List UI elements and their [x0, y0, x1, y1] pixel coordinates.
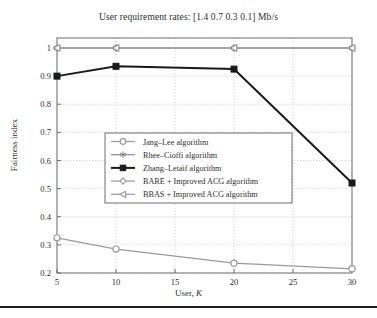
- x-tick-label: 10: [112, 277, 121, 287]
- y-tick-label: 0.9: [40, 71, 51, 81]
- legend-item-label: Jang–Lee algorithm: [143, 138, 209, 147]
- series-5: [53, 45, 354, 51]
- marker-filled-square-icon: [54, 73, 60, 79]
- x-tick-label: 30: [348, 277, 357, 287]
- y-tick-label: 0.6: [40, 156, 51, 166]
- marker-circle-icon: [349, 266, 355, 272]
- x-tick-label: 20: [230, 277, 239, 287]
- legend-item-label: Zhang–Letaif algorithm: [143, 164, 222, 173]
- marker-left-triangle-icon: [112, 45, 118, 51]
- y-tick-label: 0.8: [40, 99, 51, 109]
- marker-circle-icon: [231, 260, 237, 266]
- figure-container: User requirement rates: [1.4 0.7 0.3 0.1…: [0, 0, 377, 318]
- bottom-rule-divider: [0, 306, 377, 308]
- legend-item-label: BARE + Improved ACG algorithm: [143, 177, 259, 186]
- marker-circle-icon: [113, 246, 119, 252]
- x-tick-label: 15: [171, 277, 180, 287]
- marker-filled-square-icon: [113, 63, 119, 69]
- x-tick-label: 5: [55, 277, 59, 287]
- y-tick-label: 1: [47, 43, 51, 53]
- x-tick-label: 25: [289, 277, 298, 287]
- marker-filled-square-icon: [349, 180, 355, 186]
- marker-circle-icon: [120, 139, 126, 145]
- marker-left-triangle-icon: [53, 45, 59, 51]
- y-tick-label: 0.3: [40, 240, 51, 250]
- series-line: [57, 238, 352, 269]
- y-tick-label: 0.4: [40, 212, 51, 222]
- legend-item-label: Rhee–Cioffi algorithm: [143, 151, 218, 160]
- chart-legend: Jang–Lee algorithmRhee–Cioffi algorithmZ…: [105, 133, 292, 203]
- y-tick-label: 0.5: [40, 184, 51, 194]
- legend-item-label: BBAS + Improved ACG algorithm: [143, 190, 258, 199]
- plot-area: 0.20.30.40.50.60.70.80.9151015202530 Jan…: [0, 0, 377, 318]
- marker-filled-square-icon: [120, 165, 126, 171]
- series-1: [54, 235, 355, 272]
- marker-left-triangle-icon: [348, 45, 354, 51]
- y-tick-label: 0.2: [40, 268, 51, 278]
- y-tick-label: 0.7: [40, 127, 51, 137]
- marker-left-triangle-icon: [230, 45, 236, 51]
- marker-filled-square-icon: [231, 66, 237, 72]
- marker-circle-icon: [54, 235, 60, 241]
